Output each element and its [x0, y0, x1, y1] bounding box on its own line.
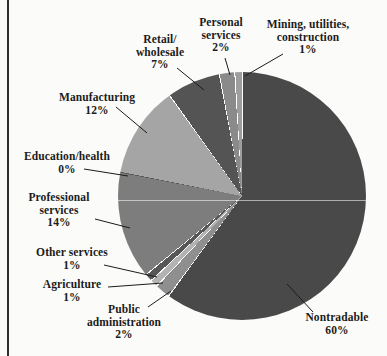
slice-label-mining-utilities-construction: Mining, utilities, construction 1%	[252, 18, 364, 56]
label-line: Personal	[186, 16, 256, 29]
label-line: services	[19, 204, 99, 217]
slice-label-manufacturing: Manufacturing 12%	[50, 91, 144, 116]
label-line: administration	[79, 316, 169, 329]
label-pct: 14%	[19, 216, 99, 229]
slice-label-other-services: Other services 1%	[27, 246, 117, 271]
label-line: Mining, utilities,	[252, 18, 364, 31]
label-line: Nontradable	[299, 311, 375, 324]
label-line: services	[186, 29, 256, 42]
slice-label-retail-wholesale: Retail/ wholesale 7%	[125, 33, 195, 71]
slice-label-public-administration: Public administration 2%	[79, 303, 169, 341]
label-pct: 12%	[50, 104, 144, 117]
label-pct: 7%	[125, 58, 195, 71]
pie-chart	[118, 72, 366, 320]
page-left-border-rule	[7, 0, 9, 356]
label-pct: 2%	[186, 41, 256, 54]
label-pct: 1%	[252, 43, 364, 56]
slice-label-professional-services: Professional services 14%	[19, 191, 99, 229]
slice-label-education-health: Education/health 0%	[12, 150, 122, 175]
label-line: wholesale	[125, 46, 195, 59]
label-pct: 1%	[32, 291, 112, 304]
slice-label-agriculture: Agriculture 1%	[32, 278, 112, 303]
label-pct: 2%	[79, 328, 169, 341]
label-line: Education/health	[12, 150, 122, 163]
label-line: Retail/	[125, 33, 195, 46]
label-line: Agriculture	[32, 278, 112, 291]
slice-label-nontradable: Nontradable 60%	[299, 311, 375, 336]
pie-horizontal-artifact-line	[118, 200, 366, 201]
label-line: Manufacturing	[50, 91, 144, 104]
label-line: Professional	[19, 191, 99, 204]
label-line: Other services	[27, 246, 117, 259]
label-pct: 0%	[12, 163, 122, 176]
label-line: Public	[79, 303, 169, 316]
label-pct: 60%	[299, 324, 375, 337]
label-pct: 1%	[27, 259, 117, 272]
slice-label-personal-services: Personal services 2%	[186, 16, 256, 54]
label-line: construction	[252, 31, 364, 44]
